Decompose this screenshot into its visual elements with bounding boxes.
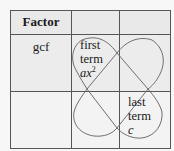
lower-left-cell: [11, 92, 72, 149]
first-term-text: first term ax2: [80, 38, 103, 80]
first-term-line2: term: [80, 52, 103, 66]
lower-middle-cell: [72, 92, 120, 149]
last-term-variable: c: [128, 123, 134, 137]
first-term-line1: first: [80, 38, 103, 52]
last-term-line1: last: [128, 95, 151, 109]
first-term-variable: ax: [80, 66, 92, 80]
header-row: Factor: [11, 11, 171, 35]
header-cell-3: [120, 11, 171, 35]
last-term-line2: term: [128, 109, 151, 123]
first-term-expression: ax2: [80, 66, 103, 80]
first-term-exponent: 2: [92, 65, 96, 74]
header-cell-2: [72, 11, 120, 35]
upper-right-cell: [120, 35, 171, 92]
last-term-text: last term c: [128, 95, 151, 137]
gcf-label: gcf: [11, 35, 71, 54]
factor-header-label: Factor: [23, 14, 60, 29]
gcf-cell: gcf: [11, 35, 72, 92]
header-cell-factor: Factor: [11, 11, 72, 35]
last-term-expression: c: [128, 123, 151, 137]
